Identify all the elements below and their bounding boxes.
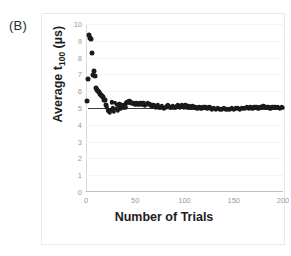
data-point	[92, 74, 97, 79]
gridline	[86, 91, 283, 92]
gridline	[86, 24, 283, 25]
gridline	[86, 74, 283, 75]
x-tick-label: 0	[84, 192, 88, 205]
gridline	[86, 125, 283, 126]
x-tick-label: 100	[178, 192, 191, 205]
data-point	[88, 37, 93, 42]
gridline	[86, 41, 283, 42]
y-tick-label: 9	[78, 36, 86, 45]
figure-panel: (B) Average t100 (µs) 012345678910 05010…	[0, 0, 291, 256]
data-point	[84, 99, 89, 104]
gridline	[86, 158, 283, 159]
y-axis-title-subscript: 100	[57, 52, 67, 66]
y-tick-label: 4	[78, 120, 86, 129]
x-axis-title: Number of Trials	[42, 210, 286, 224]
data-point	[85, 77, 90, 82]
gridline	[86, 142, 283, 143]
y-axis-title: Average t100 (µs)	[51, 0, 68, 149]
x-tick-label: 150	[227, 192, 240, 205]
y-tick-label: 3	[78, 137, 86, 146]
chart-frame: Average t100 (µs) 012345678910 050100150…	[41, 13, 285, 245]
y-axis-title-unit: (µs)	[51, 26, 65, 52]
y-tick-label: 5	[78, 104, 86, 113]
panel-label: (B)	[9, 18, 27, 33]
data-point	[281, 106, 285, 110]
y-tick-label: 6	[78, 87, 86, 96]
gridline	[86, 58, 283, 59]
plot-area: 012345678910 050100150200	[86, 24, 283, 192]
y-tick-label: 10	[74, 20, 86, 29]
y-tick-label: 1	[78, 171, 86, 180]
y-tick-label: 2	[78, 154, 86, 163]
y-tick-label: 8	[78, 53, 86, 62]
y-axis-title-base: Average t	[51, 66, 65, 123]
data-point	[89, 50, 94, 55]
x-tick-label: 50	[131, 192, 139, 205]
x-tick-label: 200	[277, 192, 290, 205]
gridline	[86, 175, 283, 176]
